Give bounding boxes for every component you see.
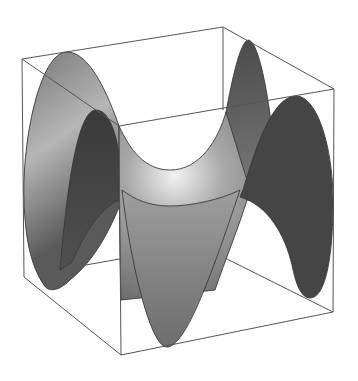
- surface-plot: [0, 0, 358, 381]
